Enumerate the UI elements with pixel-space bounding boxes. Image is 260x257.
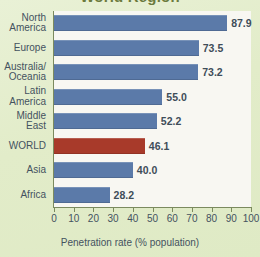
category-label-text: Europe: [14, 43, 50, 54]
x-axis-tick-label: 50: [147, 213, 158, 224]
bar: [54, 138, 145, 154]
bar-row: Africa28.2: [0, 187, 260, 203]
bar: [54, 113, 157, 129]
bar-value-label: 28.2: [110, 189, 134, 201]
bar-row: North America87.9: [0, 15, 260, 31]
chart-title: World Region: [0, 0, 260, 7]
category-label: Middle East: [0, 113, 50, 129]
category-label: Africa: [0, 187, 50, 203]
x-axis-tick-label: 90: [226, 213, 237, 224]
x-axis-tick-label: 60: [167, 213, 178, 224]
x-axis-tick-label: 10: [68, 213, 79, 224]
bar-value-label: 46.1: [145, 140, 169, 152]
x-axis-tick-label: 30: [108, 213, 119, 224]
bar-value-label: 87.9: [227, 17, 251, 29]
bar-value-label: 40.0: [133, 164, 157, 176]
x-axis-tick: [113, 208, 114, 212]
category-label: North America: [0, 15, 50, 31]
category-label-text: Asia: [27, 165, 50, 176]
bar-value-label: 73.2: [198, 66, 222, 78]
category-label: Australia/ Oceania: [0, 64, 50, 80]
bar-value-label: 55.0: [162, 91, 186, 103]
bar-row: Latin America55.0: [0, 89, 260, 105]
x-axis-tick-label: 70: [186, 213, 197, 224]
x-axis-tick: [74, 208, 75, 212]
category-label-text: Middle East: [17, 111, 50, 132]
bar-row: Middle East52.2: [0, 113, 260, 129]
bar-row: WORLD46.1: [0, 138, 260, 154]
x-axis-tick-label: 40: [127, 213, 138, 224]
x-axis-tick: [153, 208, 154, 212]
y-axis-line: [53, 11, 54, 208]
bar: [54, 162, 133, 178]
bar-value-label: 73.5: [199, 42, 223, 54]
category-label: Latin America: [0, 89, 50, 105]
category-label: WORLD: [0, 138, 50, 154]
x-axis-tick: [192, 208, 193, 212]
bar: [54, 64, 198, 80]
x-axis-tick: [251, 208, 252, 212]
x-axis-title: Penetration rate (% population): [0, 237, 260, 248]
bar: [54, 89, 162, 105]
x-axis-tick: [212, 208, 213, 212]
x-axis-tick-label: 0: [51, 213, 57, 224]
x-axis-tick: [133, 208, 134, 212]
bar: [54, 187, 110, 203]
bar-row: Asia40.0: [0, 162, 260, 178]
chart-container: World Region North America87.9Europe73.5…: [0, 0, 260, 257]
x-axis-tick: [231, 208, 232, 212]
bar-row: Europe73.5: [0, 40, 260, 56]
category-label-text: WORLD: [9, 141, 50, 152]
bar-row: Australia/ Oceania73.2: [0, 64, 260, 80]
x-axis-tick: [172, 208, 173, 212]
x-axis-tick: [54, 208, 55, 212]
x-axis-tick: [93, 208, 94, 212]
bar: [54, 40, 199, 56]
category-label-text: Australia/ Oceania: [4, 62, 50, 83]
category-label: Asia: [0, 162, 50, 178]
category-label: Europe: [0, 40, 50, 56]
x-axis-tick-label: 20: [88, 213, 99, 224]
category-label-text: Latin America: [9, 86, 50, 107]
bar: [54, 15, 227, 31]
x-axis-tick-label: 100: [243, 213, 260, 224]
bars-layer: North America87.9Europe73.5Australia/ Oc…: [0, 11, 260, 207]
x-axis-tick-label: 80: [206, 213, 217, 224]
bar-value-label: 52.2: [157, 115, 181, 127]
category-label-text: North America: [9, 13, 50, 34]
category-label-text: Africa: [20, 190, 50, 201]
